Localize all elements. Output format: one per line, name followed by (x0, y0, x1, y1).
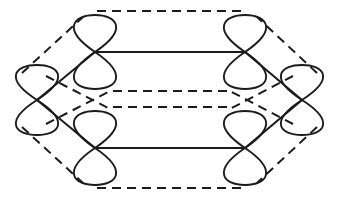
orbital-interaction-diagram (0, 0, 339, 202)
canvas-background (0, 0, 339, 202)
diagram-canvas (0, 0, 339, 202)
